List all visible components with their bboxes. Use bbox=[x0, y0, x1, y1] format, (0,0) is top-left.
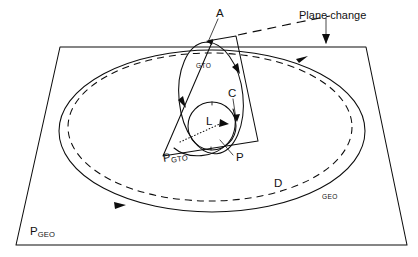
gto-orbit-direction-arrow-right bbox=[232, 63, 240, 74]
label-gto-plane: PGTO bbox=[162, 149, 188, 164]
label-perigee: P bbox=[236, 152, 244, 164]
earth-radius-arrowhead bbox=[219, 119, 229, 127]
label-geo-orbit: GEO bbox=[322, 194, 338, 201]
label-earth: L bbox=[206, 116, 212, 128]
label-plane-change: Plane change bbox=[299, 9, 369, 22]
geo-orbit-direction-arrow bbox=[114, 202, 126, 209]
label-geo-plane-subscript: GEO bbox=[38, 230, 55, 239]
gto-plane-quadrilateral bbox=[163, 36, 258, 156]
orbital-transfer-diagram: A Plane change GTO C L PGTO P D GEO PGEO bbox=[0, 0, 418, 257]
label-gto-orbit: GTO bbox=[196, 63, 211, 70]
label-apogee: A bbox=[216, 8, 224, 20]
diagram-canvas bbox=[0, 0, 418, 257]
geo-orbit-direction-arrow-upper bbox=[296, 56, 308, 63]
geo-plane-quadrilateral bbox=[16, 47, 407, 245]
apogee-leader-line bbox=[208, 19, 218, 42]
label-circularization: C bbox=[228, 88, 236, 100]
label-geo-plane: PGEO bbox=[30, 226, 55, 238]
gto-transfer-ellipse bbox=[173, 39, 248, 157]
plane-change-arrow-head bbox=[322, 34, 330, 44]
label-drift-orbit: D bbox=[274, 178, 282, 190]
label-geo-plane-letter: P bbox=[30, 225, 38, 237]
circularization-leader-arrowhead bbox=[233, 114, 240, 122]
geo-orbit-ellipse bbox=[59, 50, 365, 212]
earth-equator-dotted-line bbox=[180, 123, 222, 142]
